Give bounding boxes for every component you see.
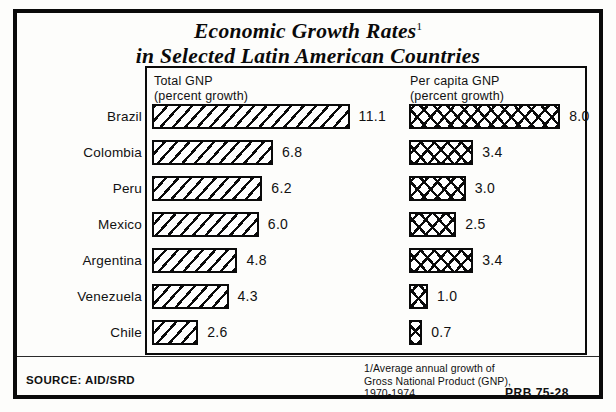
bar-per-capita-gnp (409, 176, 466, 201)
bar-value-total-gnp: 2.6 (207, 320, 227, 345)
bar-value-per-capita-gnp: 8.0 (569, 104, 589, 129)
bar-total-gnp (152, 248, 237, 273)
table-row: Brazil11.18.0 (0, 104, 616, 130)
bar-total-gnp (152, 284, 229, 309)
title-footnote-marker: 1 (417, 20, 423, 32)
country-label: Peru (0, 176, 142, 202)
footnote-line-2: Gross National Product (GNP), (364, 375, 511, 388)
bar-value-total-gnp: 6.0 (268, 212, 288, 237)
country-label: Brazil (0, 104, 142, 130)
bar-total-gnp (152, 176, 262, 201)
table-row: Mexico6.02.5 (0, 212, 616, 238)
column-header-total-gnp-line1: Total GNP (154, 74, 248, 89)
footnote: 1/Average annual growth of Gross Nationa… (364, 362, 511, 400)
bar-value-total-gnp: 6.8 (282, 140, 302, 165)
bar-value-total-gnp: 11.1 (359, 104, 386, 129)
bar-value-total-gnp: 4.3 (238, 284, 258, 309)
country-label: Venezuela (0, 284, 142, 310)
bar-per-capita-gnp (409, 212, 456, 237)
bar-total-gnp (152, 140, 273, 165)
bar-per-capita-gnp (409, 104, 560, 129)
bar-per-capita-gnp (409, 284, 428, 309)
bar-value-total-gnp: 6.2 (271, 176, 291, 201)
country-label: Chile (0, 320, 142, 346)
table-row: Peru6.23.0 (0, 176, 616, 202)
table-row: Colombia6.83.4 (0, 140, 616, 166)
country-label: Mexico (0, 212, 142, 238)
bar-total-gnp (152, 212, 259, 237)
title-line-1: Economic Growth Rates1 (17, 14, 599, 44)
table-row: Chile2.60.7 (0, 320, 616, 346)
bar-value-per-capita-gnp: 1.0 (437, 284, 457, 309)
footnote-line-3: 1970-1974 (364, 387, 511, 400)
bar-value-per-capita-gnp: 3.0 (475, 176, 495, 201)
table-row: Venezuela4.31.0 (0, 284, 616, 310)
bar-per-capita-gnp (409, 320, 422, 345)
bar-value-total-gnp: 4.8 (246, 248, 266, 273)
publication-code: PRB 75-28 (505, 386, 569, 400)
bar-total-gnp (152, 104, 350, 129)
column-header-per-capita-gnp: Per capita GNP (percent growth) (410, 74, 504, 103)
country-label: Argentina (0, 248, 142, 274)
bar-per-capita-gnp (409, 140, 473, 165)
column-header-per-capita-gnp-line1: Per capita GNP (410, 74, 504, 89)
bar-value-per-capita-gnp: 2.5 (465, 212, 485, 237)
country-label: Colombia (0, 140, 142, 166)
table-row: Argentina4.83.4 (0, 248, 616, 274)
footer-divider (17, 356, 599, 357)
source-note: SOURCE: AID/SRD (26, 374, 135, 386)
page-title: Economic Growth Rates1 in Selected Latin… (17, 14, 599, 69)
bar-per-capita-gnp (409, 248, 473, 273)
column-header-per-capita-gnp-line2: (percent growth) (410, 89, 504, 104)
bar-total-gnp (152, 320, 198, 345)
bar-value-per-capita-gnp: 3.4 (482, 248, 502, 273)
bar-value-per-capita-gnp: 3.4 (482, 140, 502, 165)
column-header-total-gnp: Total GNP (percent growth) (154, 74, 248, 103)
column-header-total-gnp-line2: (percent growth) (154, 89, 248, 104)
chart-page: Economic Growth Rates1 in Selected Latin… (0, 0, 616, 412)
footnote-line-1: 1/Average annual growth of (364, 362, 511, 375)
bar-value-per-capita-gnp: 0.7 (431, 320, 451, 345)
title-main-text: Economic Growth Rates (194, 19, 417, 43)
